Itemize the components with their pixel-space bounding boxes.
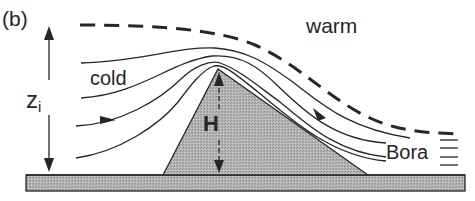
mountain — [163, 69, 368, 175]
bora-label: Bora — [386, 142, 428, 162]
zi-double-arrow — [44, 26, 54, 172]
bora-hatch-lines — [440, 140, 458, 165]
diagram-canvas — [0, 0, 475, 201]
panel-label: (b) — [2, 8, 28, 29]
warm-label: warm — [306, 15, 357, 36]
zi-main: z — [26, 86, 38, 113]
ground-strip — [26, 175, 465, 191]
flow-arrow-lee — [313, 108, 326, 121]
inversion-height-label: zi — [26, 88, 41, 114]
flow-arrow-left — [100, 116, 116, 124]
bora-flow-diagram: (b) warm cold zi H Bora — [0, 0, 475, 201]
zi-subscript: i — [38, 98, 41, 115]
mountain-height-label: H — [203, 113, 219, 135]
cold-label: cold — [90, 68, 127, 88]
